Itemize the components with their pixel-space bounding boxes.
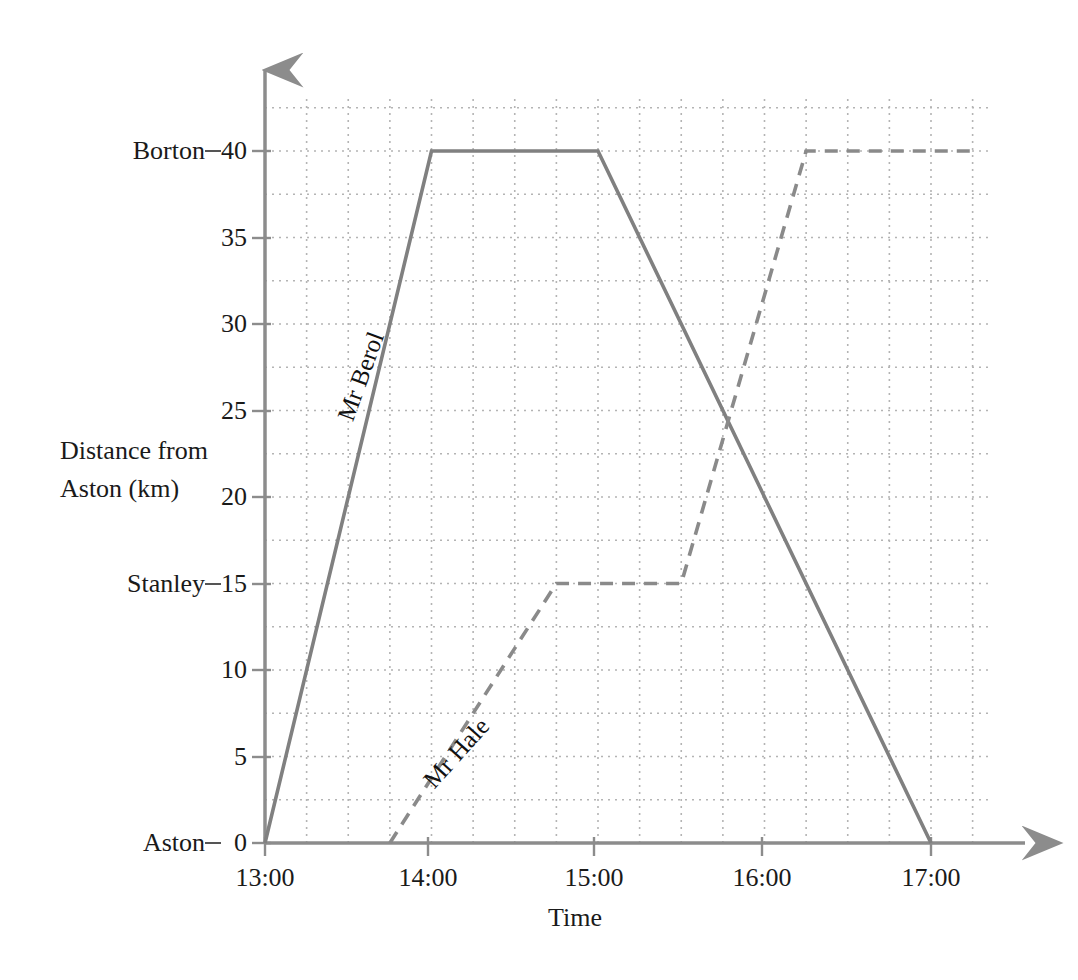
y-axis-title-line-1: Distance from (60, 432, 208, 470)
y-tick-label: 25 (207, 396, 247, 426)
y-tick-label: 30 (207, 309, 247, 339)
grid-vertical-lines (265, 99, 973, 843)
y-tick-label: 5 (207, 742, 247, 772)
x-tick-label: 15:00 (564, 863, 623, 893)
x-axis-tick-marks (265, 837, 931, 856)
y-axis-title-line-2: Aston (km) (60, 470, 208, 508)
y-tick-label: 15 (207, 569, 247, 599)
x-axis-title: Time (548, 898, 602, 937)
y-axis-tick-marks (252, 151, 271, 843)
y-tick-label: 35 (207, 223, 247, 253)
x-tick-label: 16:00 (732, 863, 791, 893)
station-label-aston: Aston (0, 828, 205, 858)
x-tick-label: 14:00 (398, 863, 457, 893)
station-label-stanley: Stanley (0, 569, 205, 599)
distance-time-graph: 0510152025303540 BortonStanleyAston 13:0… (0, 0, 1078, 980)
station-label-borton: Borton (0, 136, 205, 166)
axis-lines (265, 70, 1025, 843)
y-axis-title: Distance from Aston (km) (60, 432, 208, 507)
x-tick-label: 17:00 (901, 863, 960, 893)
x-tick-label: 13:00 (235, 863, 294, 893)
y-tick-label: 10 (207, 655, 247, 685)
y-tick-label: 40 (207, 136, 247, 166)
y-tick-label: 20 (207, 482, 247, 512)
y-tick-label: 0 (207, 828, 247, 858)
